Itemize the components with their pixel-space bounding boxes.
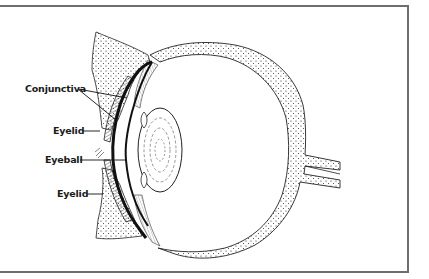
label-eyeball: Eyeball [45,154,82,165]
eye-diagram-drawing [0,0,429,279]
label-conjunctiva: Conjunctiva [25,83,86,94]
label-eyelid-lower: Eyelid [57,188,88,199]
eyelashes [95,148,104,158]
eye-anatomy-figure: Conjunctiva Eyelid Eyeball Eyelid [0,0,429,279]
label-eyelid-upper: Eyelid [53,125,84,136]
